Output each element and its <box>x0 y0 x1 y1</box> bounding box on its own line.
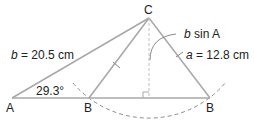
right-angle-mark <box>143 92 149 98</box>
height-label: b sin A <box>184 27 220 41</box>
side-a-short <box>89 18 149 98</box>
side-a-value: = 12.8 cm <box>193 48 249 62</box>
sine-rule-diagram: A B C B b = 20.5 cm 29.3° b sin A a = 12… <box>0 0 254 126</box>
side-b-value: = 20.5 cm <box>18 48 74 62</box>
vertex-a-label: A <box>6 101 14 115</box>
side-a-label: a = 12.8 cm <box>186 48 249 62</box>
diagram-svg: A B C B b = 20.5 cm 29.3° b sin A a = 12… <box>0 0 254 126</box>
arc-radius-a <box>73 82 226 118</box>
vertex-b2-label: B <box>206 101 214 115</box>
vertex-b1-label: B <box>84 101 92 115</box>
side-b-label: b = 20.5 cm <box>11 48 74 62</box>
vertex-c-label: C <box>144 3 153 17</box>
height-expression: sin A <box>191 27 220 41</box>
angle-a-label: 29.3° <box>36 84 64 98</box>
height-leader-arc <box>150 34 176 60</box>
